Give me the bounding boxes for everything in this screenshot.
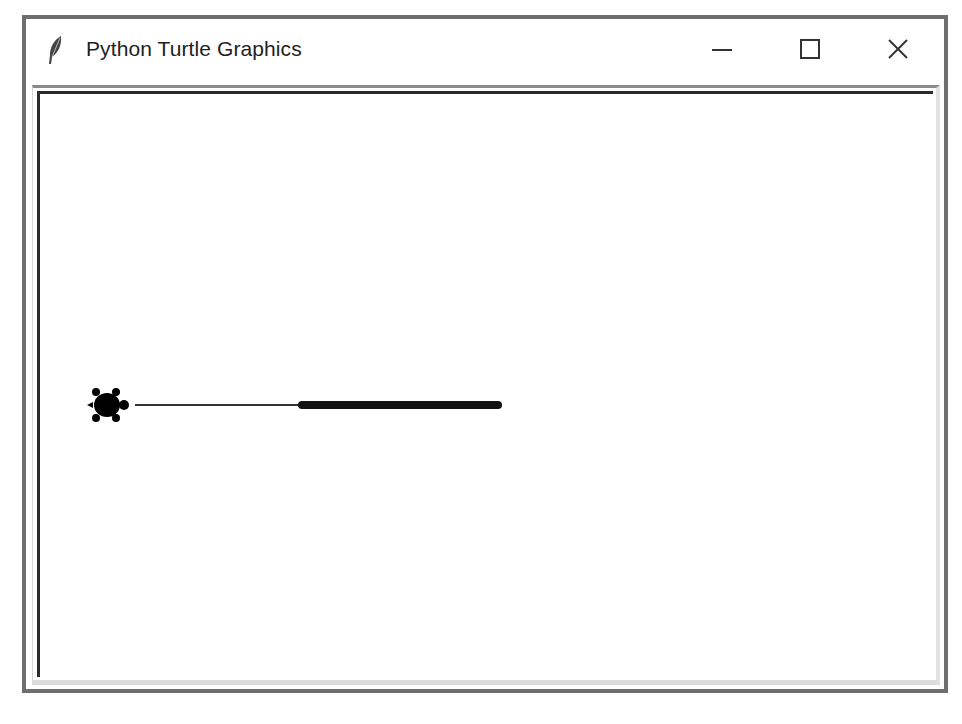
turtle-icon bbox=[87, 388, 129, 422]
maximize-icon bbox=[798, 37, 822, 65]
turtle-window: Python Turtle Graphics bbox=[22, 15, 948, 693]
minimize-icon bbox=[710, 37, 734, 65]
window-title: Python Turtle Graphics bbox=[86, 37, 302, 61]
drawing-surface bbox=[40, 94, 940, 684]
close-button[interactable] bbox=[868, 31, 928, 71]
canvas-frame bbox=[32, 85, 940, 685]
maximize-button[interactable] bbox=[780, 31, 840, 71]
feather-icon bbox=[46, 35, 64, 65]
minimize-button[interactable] bbox=[692, 31, 752, 71]
title-bar[interactable]: Python Turtle Graphics bbox=[26, 19, 944, 81]
turtle-canvas[interactable] bbox=[37, 91, 933, 677]
close-icon bbox=[886, 37, 910, 65]
